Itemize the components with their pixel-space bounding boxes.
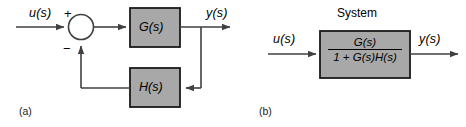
input-signal-label-b: u(s) (273, 33, 295, 46)
g-block-label: G(s) (139, 21, 163, 34)
output-signal-label-b: y(s) (419, 33, 441, 46)
h-block-label: H(s) (139, 81, 163, 94)
output-signal-label-a: y(s) (206, 7, 228, 20)
sum-plus-sign: + (64, 7, 72, 20)
fraction-numerator: G(s) (325, 36, 405, 49)
caption-a: (a) (19, 106, 32, 117)
sum-minus-sign: − (63, 42, 71, 55)
feedback-tap-line (186, 27, 201, 88)
feedback-return-line (81, 46, 130, 88)
fraction-denominator: 1 + G(s)H(s) (325, 50, 405, 63)
summing-junction (69, 15, 94, 40)
transfer-function-fraction: G(s) 1 + G(s)H(s) (325, 36, 405, 63)
block-diagram-figure: u(s) + − G(s) H(s) y(s) (a) System u(s) … (0, 0, 466, 127)
caption-b: (b) (259, 106, 272, 117)
input-signal-label-a: u(s) (29, 7, 51, 20)
system-title-label: System (337, 7, 377, 19)
